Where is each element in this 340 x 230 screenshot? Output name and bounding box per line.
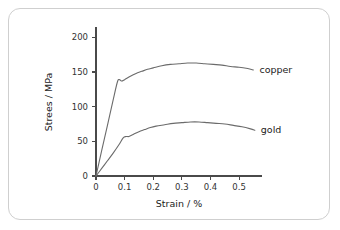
y-tick-label: 0 [83, 171, 88, 181]
y-axis-ticks: 050100150200 [72, 32, 96, 181]
x-tick-label: 0.2 [146, 182, 160, 192]
series-line-gold [96, 122, 255, 176]
y-axis-title: Strees / MPa [43, 73, 54, 132]
series-label-copper: copper [259, 64, 292, 75]
y-tick-label: 100 [72, 102, 88, 112]
x-tick-label: 0.3 [175, 182, 189, 192]
y-tick-label: 200 [72, 32, 88, 42]
x-axis-title: Strain / % [156, 198, 202, 209]
stress-strain-chart: 050100150200 00.10.20.30.40.5 coppergold… [0, 0, 340, 230]
series-labels: coppergold [259, 64, 292, 135]
y-tick-label: 50 [77, 136, 88, 146]
x-tick-label: 0.5 [232, 182, 246, 192]
series-line-copper [96, 63, 253, 176]
y-tick-label: 150 [72, 67, 88, 77]
series-label-gold: gold [261, 124, 282, 135]
x-tick-label: 0.1 [118, 182, 132, 192]
x-axis-ticks: 00.10.20.30.40.5 [93, 176, 246, 192]
x-tick-label: 0.4 [204, 182, 218, 192]
chart-series [96, 63, 255, 176]
chart-axes [96, 27, 262, 176]
x-tick-label: 0 [93, 182, 98, 192]
